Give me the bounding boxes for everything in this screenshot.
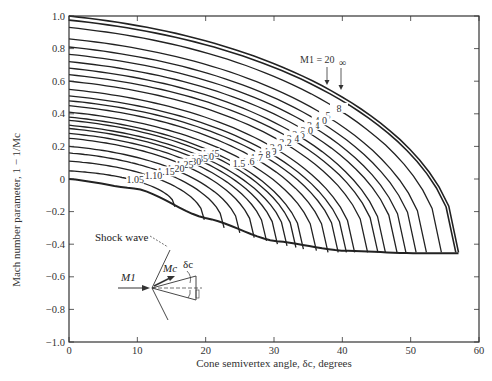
infinity-label: ∞ bbox=[339, 57, 346, 68]
shock-wave-label: Shock wave bbox=[95, 231, 149, 243]
curve-label-m1-8: 8 bbox=[337, 103, 342, 114]
shock-wave-pointer bbox=[150, 236, 168, 247]
x-tick-label: 0 bbox=[66, 345, 71, 356]
curve-label-m1-1.05: 1.05 bbox=[126, 174, 144, 185]
y-axis-title: Mach number parameter, 1 − 1/Mc bbox=[10, 133, 22, 287]
x-tick-label: 60 bbox=[474, 345, 485, 356]
shock-lower bbox=[152, 288, 168, 320]
cone-inset-diagram: Shock wave M1 Mc δc bbox=[95, 231, 202, 320]
y-tick-label: 0.4 bbox=[52, 108, 66, 119]
y-tick-label: −0.8 bbox=[46, 304, 65, 315]
cone-upper bbox=[152, 276, 196, 288]
x-tick-label: 30 bbox=[269, 345, 280, 356]
y-tick-label: 0.6 bbox=[52, 76, 65, 87]
x-tick-label: 50 bbox=[405, 345, 416, 356]
curve-m1-1.9 bbox=[69, 96, 346, 252]
cone-flow-chart: 854.03.43.02.62.42.22.01.91.81.71.61.51.… bbox=[0, 0, 492, 381]
curve-label-m1-1.10: 1.10 bbox=[145, 170, 163, 181]
infinity-arrowhead bbox=[339, 85, 344, 90]
mc-inset-label: Mc bbox=[162, 262, 177, 274]
m1-20-arrowhead bbox=[325, 80, 330, 85]
y-tick-label: −0.4 bbox=[46, 239, 66, 250]
x-axis-title: Cone semivertex angle, δc, degrees bbox=[196, 357, 351, 369]
x-tick-label: 40 bbox=[337, 345, 348, 356]
mach-curves bbox=[69, 16, 459, 253]
y-tick-label: −0.2 bbox=[46, 206, 65, 217]
x-tick-label: 20 bbox=[200, 345, 211, 356]
m1-20-label: M1 = 20 bbox=[300, 54, 335, 65]
freestream-arrowhead bbox=[142, 285, 150, 291]
y-tick-label: 1.0 bbox=[52, 11, 65, 22]
m1-inset-label: M1 bbox=[120, 271, 136, 283]
delta-c-arc bbox=[187, 271, 191, 283]
y-tick-label: 0.2 bbox=[52, 141, 65, 152]
curve-m1-4.0 bbox=[69, 47, 416, 252]
delta-c-lower-arc bbox=[188, 290, 190, 298]
y-tick-label: 0.8 bbox=[52, 43, 65, 54]
curve-label-m1-1.5: 1.5 bbox=[233, 158, 246, 169]
y-tick-label: −0.6 bbox=[46, 271, 65, 282]
cone-lower bbox=[152, 288, 196, 300]
y-tick-label: 0 bbox=[60, 174, 65, 185]
delta-c-inset-label: δc bbox=[183, 258, 193, 270]
x-tick-label: 10 bbox=[132, 345, 143, 356]
y-tick-label: −1.0 bbox=[46, 337, 65, 348]
curve-m1-1.25 bbox=[69, 138, 254, 237]
curve-m1-1.40 bbox=[69, 125, 287, 246]
